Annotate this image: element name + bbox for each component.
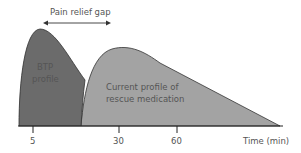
tick-label-30: 30 (113, 136, 124, 146)
x-axis-label: Time (min) (242, 136, 289, 146)
rescue-label-line2: rescue medication (106, 94, 184, 104)
pain-relief-gap-arrow (43, 21, 111, 26)
rescue-label-line1: Current profile of (106, 82, 179, 92)
gap-label: Pain relief gap (50, 7, 111, 17)
tick-label-5: 5 (30, 136, 35, 146)
tick-label-60: 60 (171, 136, 182, 146)
drug-profile-diagram: Pain relief gap BTP profile Current prof… (0, 0, 301, 153)
btp-label-line1: BTP (37, 62, 53, 72)
btp-label-line2: profile (32, 74, 59, 84)
